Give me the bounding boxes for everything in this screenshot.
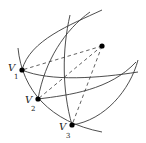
curve-outer-arc bbox=[18, 48, 102, 132]
point-p bbox=[99, 43, 104, 48]
curve-v1-right bbox=[22, 70, 138, 78]
label-v2: V bbox=[25, 94, 34, 105]
label-v3-subscript: 3 bbox=[66, 132, 70, 140]
diagram-canvas: V 1 V 2 V 3 bbox=[0, 0, 146, 143]
curve-v2-upper bbox=[38, 12, 90, 99]
label-v3: V bbox=[59, 121, 68, 132]
dashed-edge-p-v2 bbox=[38, 46, 102, 99]
label-v1-subscript: 1 bbox=[14, 73, 18, 81]
point-v2 bbox=[35, 96, 40, 101]
point-v1 bbox=[19, 67, 24, 72]
label-v1: V bbox=[8, 62, 17, 73]
curve-v3-upper bbox=[64, 15, 72, 125]
dashed-edge-p-v3 bbox=[72, 46, 102, 125]
point-v3 bbox=[69, 122, 74, 127]
label-v2-subscript: 2 bbox=[31, 105, 35, 113]
